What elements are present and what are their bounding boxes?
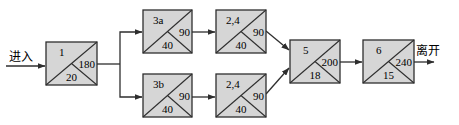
node-right-value: 180 <box>79 58 96 70</box>
node-right-value: 90 <box>253 26 265 38</box>
edge-24top-5 <box>266 31 289 50</box>
node-id: 1 <box>59 46 65 58</box>
node-bottom-value: 40 <box>236 103 248 115</box>
node-right-value: 240 <box>396 56 413 68</box>
process-flow-diagram: 进入 离开 1180203a90403b90402,490402,4904052… <box>0 0 459 125</box>
node-id: 3a <box>153 14 164 26</box>
edge-24bottom-5 <box>266 68 289 94</box>
node-box: 520018 <box>290 40 340 83</box>
node-box: 2,49040 <box>216 74 266 117</box>
node-id: 2,4 <box>226 78 240 90</box>
node-id: 6 <box>376 44 382 56</box>
edge-1-3a <box>120 32 142 64</box>
node-id: 5 <box>303 44 309 56</box>
node-id: 3b <box>153 78 165 90</box>
node-right-value: 200 <box>322 56 339 68</box>
edge-1-3b <box>120 64 142 97</box>
node-id: 2,4 <box>226 14 240 26</box>
exit-label: 离开 <box>416 43 440 58</box>
node-bottom-value: 18 <box>310 69 322 81</box>
entry-label: 进入 <box>9 50 33 64</box>
node-box: 624015 <box>363 40 414 83</box>
node-right-value: 90 <box>253 90 265 102</box>
node-bottom-value: 40 <box>236 39 248 51</box>
node-box: 3b9040 <box>143 74 192 117</box>
node-box: 3a9040 <box>143 10 192 53</box>
node-box: 2,49040 <box>216 10 266 53</box>
node-bottom-value: 15 <box>383 69 395 81</box>
node-box: 118020 <box>46 42 97 85</box>
node-bottom-value: 40 <box>162 39 174 51</box>
node-bottom-value: 20 <box>66 71 78 83</box>
node-bottom-value: 40 <box>162 103 174 115</box>
node-right-value: 90 <box>179 26 191 38</box>
node-right-value: 90 <box>179 90 191 102</box>
